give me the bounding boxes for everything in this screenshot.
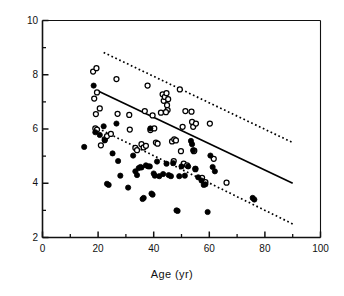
data-point-filled (179, 164, 184, 169)
data-point-filled (91, 83, 96, 88)
data-point-open (173, 138, 178, 143)
data-point-open (135, 148, 140, 153)
data-point-filled (208, 153, 213, 158)
x-tick-label: 0 (23, 244, 63, 254)
data-point-filled (182, 173, 187, 178)
data-point-open (193, 121, 198, 126)
data-point-open (98, 143, 103, 148)
data-point-filled (101, 124, 106, 129)
data-point-open (189, 109, 194, 114)
data-point-filled (131, 153, 136, 158)
data-point-filled (116, 158, 121, 163)
data-point-open (94, 90, 99, 95)
data-point-filled (212, 169, 217, 174)
data-point-open (93, 112, 98, 117)
data-point-open (97, 106, 102, 111)
data-point-filled (171, 161, 176, 166)
data-point-open (127, 127, 132, 132)
data-point-open (92, 96, 97, 101)
data-point-open (143, 143, 148, 148)
data-point-filled (141, 195, 146, 200)
y-tick-label: 6 (8, 124, 38, 134)
data-point-open (166, 97, 171, 102)
data-point-filled (252, 197, 257, 202)
data-point-open (177, 87, 182, 92)
data-point-filled (175, 208, 180, 213)
data-point-filled (82, 144, 87, 149)
x-tick-label: 40 (134, 244, 174, 254)
data-point-filled (193, 166, 198, 171)
data-point-open (158, 110, 163, 115)
data-point-open (142, 109, 147, 114)
data-point-open (150, 113, 155, 118)
data-point-open (155, 141, 160, 146)
data-point-filled (114, 121, 119, 126)
x-tick-label: 60 (189, 244, 229, 254)
data-point-filled (203, 182, 208, 187)
data-point-filled (177, 174, 182, 179)
data-point-filled (150, 192, 155, 197)
data-point-open (178, 149, 183, 154)
data-point-open (164, 91, 169, 96)
data-point-open (115, 111, 120, 116)
data-point-filled (148, 126, 153, 131)
data-point-filled (102, 138, 107, 143)
y-tick-label: 2 (8, 233, 38, 243)
data-point-filled (168, 174, 173, 179)
data-point-open (180, 124, 185, 129)
data-point-filled (154, 159, 159, 164)
data-point-open (114, 77, 119, 82)
data-point-filled (205, 209, 210, 214)
scatter-plot-figure: Age (yr) 246810020406080100 (0, 0, 344, 296)
data-point-filled (164, 161, 169, 166)
x-tick-label: 100 (301, 244, 341, 254)
y-tick-label: 10 (8, 16, 38, 26)
data-point-open (127, 112, 132, 117)
data-point-filled (161, 171, 166, 176)
y-tick-label: 8 (8, 70, 38, 80)
data-point-open (163, 110, 168, 115)
data-point-filled (110, 151, 115, 156)
data-point-filled (189, 142, 194, 147)
data-point-filled (147, 164, 152, 169)
data-point-open (207, 121, 212, 126)
data-point-filled (191, 148, 196, 153)
data-point-filled (118, 173, 123, 178)
x-tick-label: 20 (78, 244, 118, 254)
data-point-open (224, 180, 229, 185)
data-point-filled (126, 185, 131, 190)
data-point-filled (106, 182, 111, 187)
x-tick-label: 80 (245, 244, 285, 254)
data-point-open (183, 109, 188, 114)
data-point-filled (186, 164, 191, 169)
data-point-open (165, 103, 170, 108)
data-point-open (108, 131, 113, 136)
data-point-open (94, 66, 99, 71)
y-tick-label: 4 (8, 178, 38, 188)
data-point-filled (97, 132, 102, 137)
x-axis-title: Age (yr) (0, 268, 344, 280)
data-point-filled (134, 173, 139, 178)
data-point-open (145, 83, 150, 88)
